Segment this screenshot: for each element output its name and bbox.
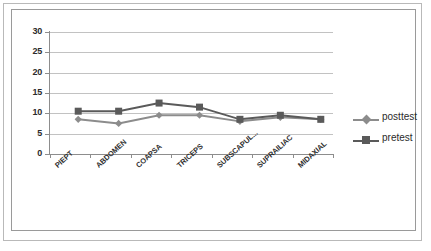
gridline <box>50 93 333 94</box>
x-axis-category-label: COAPSA <box>134 142 163 170</box>
y-axis-tick-label: 10 <box>16 107 42 117</box>
data-point-pretest <box>156 100 163 107</box>
chart-outer-frame: 051015202530 PIEPTABDOMENCOAPSATRICEPSSU… <box>3 3 422 241</box>
data-point-posttest <box>277 114 284 121</box>
data-point-posttest <box>75 116 82 123</box>
data-point-pretest <box>317 116 324 123</box>
y-axis-tick-label: 20 <box>16 67 42 77</box>
y-axis-tick-label: 25 <box>16 46 42 56</box>
x-axis-tick-mark <box>90 154 91 158</box>
gridline <box>50 73 333 74</box>
y-axis-tick-label: 15 <box>16 87 42 97</box>
x-axis-category-label: SUPRAILIAC <box>255 133 294 170</box>
legend-label: pretest <box>382 132 413 143</box>
chart-inner-frame: 051015202530 PIEPTABDOMENCOAPSATRICEPSSU… <box>11 9 416 231</box>
series-line-posttest <box>78 115 321 123</box>
gridline <box>50 52 333 53</box>
x-axis-tick-mark <box>131 154 132 158</box>
data-point-posttest <box>317 116 324 123</box>
x-axis-category-label: PIEPT <box>53 149 75 170</box>
legend-label: posttest <box>382 111 417 122</box>
legend-marker-diamond <box>362 115 372 125</box>
x-axis-tick-mark <box>50 154 51 158</box>
y-axis-tick-label: 5 <box>16 128 42 138</box>
data-point-pretest <box>196 104 203 111</box>
data-point-pretest <box>236 116 243 123</box>
gridline <box>50 32 333 33</box>
x-axis-tick-mark <box>293 154 294 158</box>
data-point-posttest <box>236 118 243 125</box>
x-axis-category-label: TRICEPS <box>175 142 205 170</box>
x-axis-tick-mark <box>212 154 213 158</box>
series-line-pretest <box>78 103 321 119</box>
y-axis-tick-label: 0 <box>16 148 42 158</box>
x-axis-tick-mark <box>171 154 172 158</box>
legend-item-pretest[interactable]: pretest <box>353 131 427 152</box>
legend-item-posttest[interactable]: posttest <box>353 110 427 131</box>
data-point-posttest <box>115 120 122 127</box>
chart-legend: posttestpretest <box>353 110 427 152</box>
legend-marker-square <box>362 136 370 144</box>
x-axis-tick-mark <box>252 154 253 158</box>
gridline <box>50 113 333 114</box>
x-axis-tick-mark <box>333 154 334 158</box>
y-axis-tick-label: 30 <box>16 26 42 36</box>
